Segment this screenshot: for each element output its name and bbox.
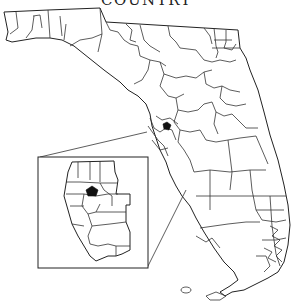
county-boundaries-tampa [148, 116, 178, 156]
highlighted-district [163, 122, 171, 130]
keys [206, 292, 226, 300]
island [181, 287, 191, 293]
county-boundaries-central [134, 46, 286, 266]
county-boundaries-southeast [196, 222, 282, 272]
florida-map [0, 0, 293, 304]
county-boundaries-panhandle [10, 8, 240, 62]
